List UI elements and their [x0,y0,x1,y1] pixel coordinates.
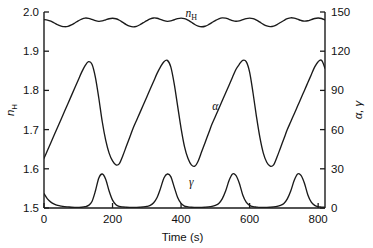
x-axis-tick-label: 200 [103,213,122,225]
right-axis-title: α, γ [352,99,364,119]
right-axis-tick-label: 120 [331,45,350,57]
left-axis-tick-label: 1.5 [23,202,39,214]
x-axis-tick-label: 0 [41,213,47,225]
left-axis-title: nH [4,104,19,116]
x-axis-tick-label: 800 [309,213,328,225]
left-axis-tick-label: 2.0 [23,6,39,18]
left-axis-tick-label: 1.8 [23,84,39,96]
curve-label-gamma: γ [189,176,194,189]
x-axis-title: Time (s) [162,231,204,243]
x-axis-tick-label: 600 [240,213,259,225]
right-axis-tick-label: 90 [331,84,344,96]
chart-figure: 1.51.61.71.81.92.00306090120150020040060… [0,0,373,248]
right-axis-tick-label: 60 [331,124,344,136]
left-axis-tick-label: 1.9 [23,45,39,57]
left-axis-tick-label: 1.6 [23,163,39,175]
curve-gamma [44,174,325,208]
right-axis-tick-label: 150 [331,6,350,18]
oscillation-plot: 1.51.61.71.81.92.00306090120150020040060… [0,0,373,248]
left-axis-tick-label: 1.7 [23,124,39,136]
curve-label-alpha: α [212,100,219,112]
right-axis-tick-label: 30 [331,163,344,175]
right-axis-title-text: α, γ [352,99,364,119]
x-axis-tick-label: 400 [171,213,190,225]
right-axis-tick-label: 0 [331,202,337,214]
left-axis-title-text: nH [4,104,19,116]
curve-alpha [44,60,325,167]
curve-nH [44,18,325,27]
